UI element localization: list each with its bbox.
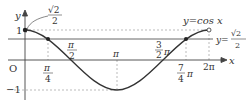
svg-text:√2: √2 — [231, 29, 241, 38]
y-axis-arrow-icon — [23, 10, 28, 16]
y-tick-1: 1 — [16, 25, 22, 36]
cosine-graph: y x O 1 −1 √2 2 π 4 π 2 π 3 2 π 7 4 π 2π… — [0, 0, 248, 103]
svg-text:2: 2 — [235, 41, 240, 50]
callout-sqrt2-over-2: √2 2 — [48, 5, 62, 26]
tick-label-pi4: π 4 — [43, 63, 53, 84]
hline-label: y= √2 2 — [215, 29, 246, 50]
function-label: y=cos x — [182, 15, 223, 26]
svg-text:4: 4 — [178, 74, 184, 84]
tick-label-3pi2: 3 2 π — [155, 40, 171, 60]
x-axis-arrow-icon — [221, 58, 227, 63]
callout-two: 2 — [52, 16, 58, 26]
point-7pi4 — [184, 37, 188, 41]
svg-text:y=: y= — [215, 35, 229, 45]
svg-text:3: 3 — [156, 40, 162, 50]
point-0-1 — [23, 28, 27, 32]
svg-text:7: 7 — [178, 63, 184, 73]
tick-label-2pi: 2π — [203, 62, 215, 72]
svg-text:π: π — [163, 47, 171, 57]
callout-leader — [27, 16, 48, 29]
callout-sqrt2: √2 — [48, 5, 59, 15]
point-pi4 — [46, 37, 50, 41]
svg-text:2: 2 — [156, 50, 162, 60]
tick-label-7pi4: 7 4 π — [177, 63, 194, 84]
svg-text:2: 2 — [69, 51, 75, 61]
y-tick-neg1: −1 — [6, 84, 21, 95]
svg-text:π: π — [186, 69, 194, 79]
y-axis-label: y — [14, 10, 21, 21]
svg-text:π: π — [43, 63, 51, 73]
x-axis-label: x — [229, 55, 235, 66]
origin-label: O — [9, 63, 17, 74]
svg-text:π: π — [67, 40, 75, 50]
svg-text:4: 4 — [45, 74, 51, 84]
tick-label-pi2: π 2 — [67, 40, 77, 61]
tick-label-pi: π — [112, 49, 120, 59]
point-2pi-open — [207, 28, 211, 32]
